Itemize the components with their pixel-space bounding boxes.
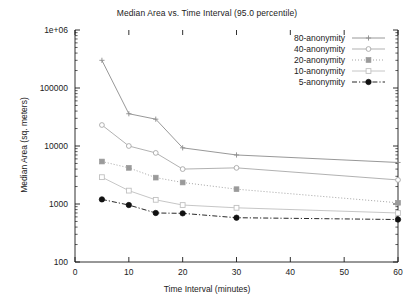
svg-text:30: 30 <box>232 267 242 277</box>
svg-text:50: 50 <box>339 267 349 277</box>
legend-label-40-anonymity: 40-anonymity <box>294 44 346 54</box>
series-20-anonymity <box>100 159 401 205</box>
series-40-anonymity <box>100 123 401 183</box>
legend-sample-40-anonymity <box>352 47 385 52</box>
chart-legend: 80-anonymity40-anonymity20-anonymity10-a… <box>294 33 385 87</box>
svg-text:20: 20 <box>178 267 188 277</box>
series-80-anonymity <box>99 58 400 165</box>
x-axis-ticks: 0102030405060 <box>73 30 403 277</box>
legend-label-10-anonymity: 10-anonymity <box>294 66 346 76</box>
legend-sample-10-anonymity <box>352 69 385 74</box>
svg-text:1000: 1000 <box>49 199 68 209</box>
legend-label-5-anonymity: 5-anonymity <box>299 77 346 87</box>
plot-area: 1001000100001000001e+06 0102030405060 80… <box>0 0 414 303</box>
svg-text:40: 40 <box>286 267 296 277</box>
series-5-anonymity <box>99 197 400 223</box>
svg-text:0: 0 <box>73 267 78 277</box>
chart-container: Median Area vs. Time Interval (95.0 perc… <box>0 0 414 303</box>
legend-sample-80-anonymity <box>352 35 385 40</box>
svg-text:1e+06: 1e+06 <box>44 25 68 35</box>
legend-sample-20-anonymity <box>352 58 385 63</box>
legend-label-20-anonymity: 20-anonymity <box>294 55 346 65</box>
legend-sample-5-anonymity <box>352 79 385 84</box>
svg-text:100: 100 <box>54 257 68 267</box>
svg-text:10: 10 <box>124 267 134 277</box>
legend-label-80-anonymity: 80-anonymity <box>294 33 346 43</box>
svg-text:100000: 100000 <box>40 83 69 93</box>
svg-text:60: 60 <box>393 267 403 277</box>
axis-frame <box>75 30 398 262</box>
svg-text:10000: 10000 <box>44 141 68 151</box>
